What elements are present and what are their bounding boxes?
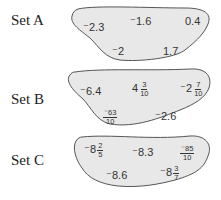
set-b-row: Set B ⁻6.4 4310 ⁻2710 ⁻6310 ⁻2.6 <box>0 66 221 132</box>
denominator: 7 <box>173 174 179 182</box>
set-c-value: ⁻8.6 <box>106 170 127 181</box>
set-a-value: ⁻2.3 <box>83 22 104 33</box>
whole: ⁻2 <box>180 82 192 94</box>
set-b-value: ⁻6.4 <box>80 86 101 97</box>
denominator: 10 <box>193 90 203 98</box>
set-c-value: ⁻825 <box>84 142 103 158</box>
set-a-value: ⁻2 <box>112 46 124 57</box>
fraction: 25 <box>97 142 103 158</box>
set-a-value: ⁻1.6 <box>130 16 151 27</box>
fraction: ⁻8510 <box>180 145 194 162</box>
fraction: ⁻6310 <box>103 109 117 126</box>
denominator: 10 <box>106 118 114 126</box>
set-c-value: ⁻8.3 <box>132 147 153 158</box>
set-a-row: Set A ⁻2.3 ⁻1.6 0.4 ⁻2 1.7 <box>0 0 221 66</box>
set-b-value: ⁻6310 <box>103 106 117 126</box>
denominator: 10 <box>139 90 149 98</box>
set-c-row: Set C ⁻825 ⁻8.3 ⁻8510 ⁻8.6 ⁻837 <box>0 132 221 200</box>
set-a-blob <box>0 0 221 66</box>
fraction: 37 <box>173 165 179 181</box>
whole: ⁻8 <box>84 143 96 155</box>
set-c-value: ⁻837 <box>160 165 179 181</box>
set-b-value: 4310 <box>132 81 149 97</box>
set-b-value: ⁻2.6 <box>155 111 176 122</box>
set-a-value: 0.4 <box>185 16 200 27</box>
whole: 4 <box>132 82 138 94</box>
set-a-value: 1.7 <box>163 46 178 57</box>
whole: ⁻8 <box>160 166 172 178</box>
set-b-value: ⁻2710 <box>180 81 203 97</box>
num-digits: 85 <box>185 144 193 153</box>
denominator: 5 <box>97 151 103 159</box>
fraction: 710 <box>193 81 203 97</box>
denominator: 10 <box>183 154 191 162</box>
num-digits: 63 <box>108 108 116 117</box>
set-c-value: ⁻8510 <box>180 142 194 162</box>
fraction: 310 <box>139 81 149 97</box>
